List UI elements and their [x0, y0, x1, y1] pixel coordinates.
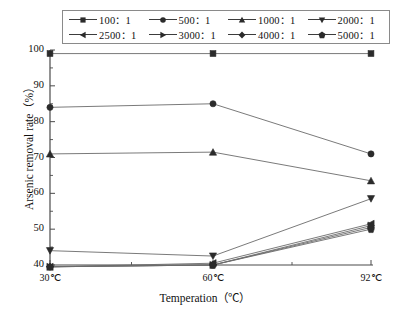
- y-tick-label: 90: [20, 79, 44, 90]
- y-tick-label: 100: [20, 43, 44, 54]
- x-tick-label: 92℃: [348, 272, 394, 283]
- series-line-2500：1: [50, 224, 371, 267]
- series-line-4000：1: [50, 227, 371, 266]
- y-tick-label: 70: [20, 151, 44, 162]
- series-line-3000：1: [50, 226, 371, 267]
- y-tick-label: 60: [20, 186, 44, 197]
- data-point-circle: [210, 101, 216, 107]
- series-line-500：1: [50, 104, 371, 154]
- x-axis-title: Temperation（℃）: [0, 289, 410, 305]
- y-tick-label: 40: [20, 258, 44, 269]
- y-tick-label: 80: [20, 115, 44, 126]
- data-point-circle: [368, 151, 374, 157]
- chart-figure: 100：1 500：1 1000：1: [0, 0, 410, 320]
- series-line-5000：1: [50, 229, 371, 267]
- data-point-triangle-down: [367, 196, 374, 203]
- x-tick-label: 60℃: [190, 272, 236, 283]
- series-line-1000：1: [50, 152, 371, 181]
- data-point-square: [368, 51, 374, 57]
- y-tick-label: 50: [20, 222, 44, 233]
- data-point-square: [210, 51, 216, 57]
- series-line-2000：1: [50, 199, 371, 256]
- data-point-square: [47, 51, 53, 57]
- data-point-circle: [47, 104, 53, 110]
- x-tick-label: 30℃: [27, 272, 73, 283]
